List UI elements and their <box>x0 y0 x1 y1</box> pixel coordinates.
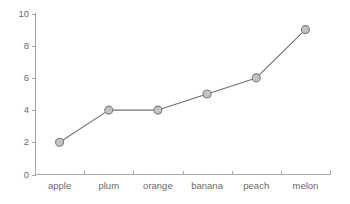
y-axis: 0246810 <box>18 8 35 180</box>
y-axis-ticks <box>32 15 36 176</box>
x-axis-category-label: melon <box>292 180 318 191</box>
x-axis-tick-labels: appleplumorangebananapeachmelon <box>48 180 318 191</box>
data-point-marker <box>56 138 64 146</box>
x-axis-category-label: plum <box>98 180 119 191</box>
series-line-path <box>60 30 306 143</box>
x-axis: appleplumorangebananapeachmelon <box>35 171 331 192</box>
data-series <box>56 26 310 147</box>
data-point-markers <box>56 26 310 147</box>
data-point-marker <box>301 26 309 34</box>
y-axis-tick-label: 4 <box>24 104 29 115</box>
x-axis-category-label: apple <box>48 180 71 191</box>
data-point-marker <box>105 106 113 114</box>
y-axis-tick-label: 8 <box>24 40 29 51</box>
y-axis-tick-label: 10 <box>18 8 29 19</box>
y-axis-tick-label: 6 <box>24 72 29 83</box>
data-point-marker <box>203 90 211 98</box>
data-point-marker <box>252 74 260 82</box>
y-axis-tick-label: 0 <box>24 169 29 180</box>
y-axis-tick-label: 2 <box>24 136 29 147</box>
x-axis-category-label: peach <box>243 180 269 191</box>
line-chart: 0246810 appleplumorangebananapeachmelon <box>0 0 350 204</box>
chart-plot-area: 0246810 appleplumorangebananapeachmelon <box>0 0 350 204</box>
y-axis-tick-labels: 0246810 <box>18 8 29 180</box>
x-axis-category-label: banana <box>191 180 223 191</box>
x-axis-ticks <box>36 171 331 175</box>
data-point-marker <box>154 106 162 114</box>
x-axis-category-label: orange <box>143 180 173 191</box>
